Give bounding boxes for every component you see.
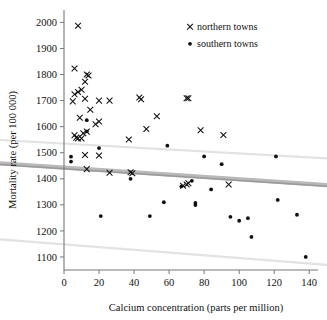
point-dot [190,179,194,183]
data-points [69,23,308,259]
y-tick-label: 1900 [36,43,57,54]
y-axis-label: Mortality rate (per 100 000) [7,91,19,209]
point-dot [304,255,308,259]
y-tick-label: 1400 [36,173,57,184]
axes [64,10,318,270]
y-tick-label: 1800 [36,69,57,80]
legend-label: northern towns [197,21,257,32]
point-dot [69,155,73,159]
series-southern-towns [69,118,308,259]
point-dot [202,154,206,158]
scatter-chart: 1100120013001400150016001700180019002000… [0,0,327,320]
plot-canvas: 1100120013001400150016001700180019002000… [0,0,327,320]
x-axis-ticks: 020406080100120140 [61,270,317,288]
y-tick-label: 1600 [36,121,57,132]
y-tick-label: 1700 [36,95,57,106]
x-tick-label: 0 [61,277,66,288]
x-tick-label: 20 [94,277,105,288]
point-dot [229,215,233,219]
x-tick-label: 40 [129,277,140,288]
legend-label: southern towns [197,38,258,49]
point-dot [162,200,166,204]
x-tick-label: 60 [164,277,175,288]
x-tick-label: 120 [266,277,282,288]
point-dot [237,219,241,223]
point-dot [165,144,169,148]
y-tick-label: 2000 [36,17,57,28]
y-tick-label: 1100 [36,252,57,263]
point-dot [193,203,197,207]
legend-dot-icon [188,42,192,46]
legend: northern townssouthern towns [187,21,258,49]
point-dot [295,213,299,217]
x-axis-label: Calcium concentration (parts per million… [109,302,284,314]
point-dot [274,154,278,158]
point-dot [220,162,224,166]
x-tick-label: 100 [231,277,247,288]
y-tick-label: 1500 [36,147,57,158]
point-dot [97,146,101,150]
point-dot [85,129,89,133]
x-tick-label: 140 [301,277,317,288]
y-tick-label: 1200 [36,226,57,237]
point-dot [69,160,73,164]
point-dot [276,198,280,202]
point-dot [250,235,254,239]
point-dot [85,118,89,122]
point-dot [179,184,183,188]
x-tick-label: 80 [199,277,210,288]
point-dot [246,216,250,220]
point-dot [148,214,152,218]
y-tick-label: 1300 [36,199,57,210]
point-dot [209,188,213,192]
point-dot [99,214,103,218]
y-axis-ticks: 1100120013001400150016001700180019002000 [36,17,64,263]
point-dot [129,177,133,181]
